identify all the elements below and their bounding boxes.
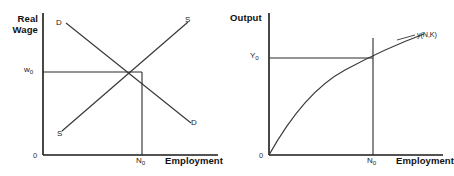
production-function-curve — [269, 34, 424, 155]
wage-tick-subscript: 0 — [30, 68, 33, 75]
output-tick-label: Y0 — [250, 52, 259, 60]
supply-curve — [62, 22, 188, 131]
employment-tick-label: N0 — [136, 157, 145, 165]
y-axis-title: Real Wage — [4, 14, 38, 36]
demand-curve-label-top: D — [56, 19, 62, 27]
employment-tick-base: N — [367, 156, 373, 165]
origin-label: 0 — [259, 152, 263, 160]
production-function-panel: Output Y0 0 N0 Employment y(N,K) — [221, 0, 449, 176]
curve-label-leader-line — [397, 35, 415, 40]
employment-tick-base: N — [136, 156, 142, 165]
employment-tick-label: N0 — [367, 157, 376, 165]
wage-tick-label: w0 — [24, 66, 33, 74]
labor-market-panel: Real Wage w0 0 N0 Employment D D S S — [0, 0, 228, 176]
demand-curve-label-bottom: D — [191, 119, 197, 127]
employment-tick-subscript: 0 — [373, 159, 376, 166]
y-axis-title-line2: Wage — [4, 25, 38, 36]
wage-tick-base: w — [24, 65, 30, 74]
production-function-label: y(N,K) — [417, 31, 437, 39]
x-axis-title: Employment — [165, 156, 223, 166]
output-tick-subscript: 0 — [255, 54, 258, 61]
origin-label: 0 — [33, 152, 37, 160]
y-axis-title: Output — [230, 13, 262, 23]
x-axis-title: Employment — [396, 156, 454, 166]
production-function-plot — [221, 0, 449, 176]
employment-tick-subscript: 0 — [142, 159, 145, 166]
supply-curve-label-bottom: S — [57, 130, 62, 138]
supply-curve-label-top: S — [185, 16, 190, 24]
